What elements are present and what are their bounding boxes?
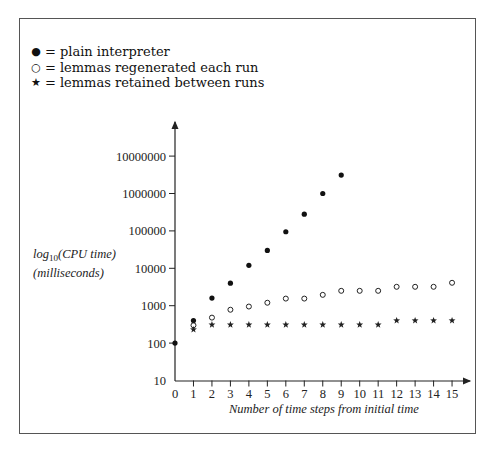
y-tick-label: 100 (147, 337, 166, 351)
filled-circle-point (172, 341, 177, 346)
x-tick-label: 7 (301, 387, 307, 401)
x-tick-label: 0 (172, 387, 178, 401)
y-axis-title-line2: (milliseconds) (33, 266, 104, 280)
open-circle-point (228, 307, 233, 312)
x-tick-label: 2 (209, 387, 215, 401)
x-ticks: 0123456789101112131415 (172, 381, 458, 402)
star-point (282, 321, 289, 328)
open-circle-point (357, 288, 362, 293)
x-tick-label: 14 (427, 387, 440, 401)
open-circle-point (246, 304, 251, 309)
x-tick-label: 9 (338, 387, 344, 401)
open-circle-point (450, 280, 455, 285)
star-point (245, 321, 252, 328)
open-circle-point (265, 300, 270, 305)
filled-circle-point (246, 263, 251, 268)
star-point (319, 321, 326, 328)
x-tick-label: 12 (390, 387, 403, 401)
x-tick-label: 3 (227, 387, 233, 401)
open-circle-point (431, 284, 436, 289)
y-tick-label: 1000 (141, 299, 166, 313)
filled-circle-point (302, 212, 307, 217)
y-tick-label: 10000000 (116, 150, 166, 164)
y-tick-label: 1000000 (122, 187, 166, 201)
star-point (393, 317, 400, 324)
x-tick-label: 13 (409, 387, 422, 401)
star-point (449, 317, 456, 324)
star-point (209, 321, 216, 328)
filled-circle-point (320, 191, 325, 196)
star-point (412, 317, 419, 324)
y-ticks: 10100100010000100000100000010000000 (116, 150, 175, 388)
filled-circle-point (265, 248, 270, 253)
star-point (227, 321, 234, 328)
x-tick-label: 6 (283, 387, 289, 401)
y-axis-title-line1: log10(CPU time) (33, 247, 116, 263)
x-tick-label: 15 (446, 387, 459, 401)
star-point (301, 321, 308, 328)
open-circle-point (394, 284, 399, 289)
plot-area: 10100100010000100000100000010000000 0123… (0, 0, 497, 451)
y-tick-label: 100000 (129, 224, 167, 238)
x-tick-label: 5 (264, 387, 270, 401)
open-circle-point (209, 315, 214, 320)
x-tick-label: 4 (246, 387, 253, 401)
star-point (264, 321, 271, 328)
filled-circle-point (283, 229, 288, 234)
data-points (172, 173, 455, 346)
open-circle-point (283, 296, 288, 301)
open-circle-point (302, 296, 307, 301)
x-axis-title: Number of time steps from initial time (228, 402, 419, 416)
open-circle-point (376, 288, 381, 293)
x-tick-label: 8 (320, 387, 326, 401)
y-tick-label: 10 (154, 374, 167, 388)
filled-circle-point (209, 295, 214, 300)
open-circle-point (413, 284, 418, 289)
open-circle-point (320, 292, 325, 297)
star-point (430, 317, 437, 324)
x-tick-label: 11 (372, 387, 384, 401)
star-point (338, 321, 345, 328)
x-tick-label: 10 (353, 387, 366, 401)
x-tick-label: 1 (190, 387, 196, 401)
filled-circle-point (339, 173, 344, 178)
star-point (356, 321, 363, 328)
star-point (375, 321, 382, 328)
y-tick-label: 10000 (135, 262, 166, 276)
filled-circle-point (228, 281, 233, 286)
open-circle-point (339, 288, 344, 293)
